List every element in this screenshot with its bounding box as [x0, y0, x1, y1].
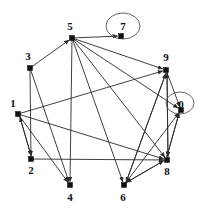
directed-graph-figure: 0123456789: [0, 0, 209, 212]
graph-edge-8-to-9: [167, 73, 168, 157]
node-label-5: 5: [67, 20, 73, 32]
node-label-0: 0: [178, 98, 184, 110]
node-label-6: 6: [120, 191, 126, 203]
graph-edge-3-to-4: [31, 70, 69, 182]
node-label-2: 2: [28, 164, 34, 176]
graph-edge-5-to-6: [73, 40, 123, 182]
node-label-7: 7: [120, 20, 126, 32]
graph-edge-3-to-2: [30, 70, 31, 155]
edges-layer: [19, 36, 180, 183]
graph-edge-5-to-4: [70, 40, 72, 181]
graph-edge-2-to-1: [20, 117, 31, 157]
graph-node-5[interactable]: [70, 36, 75, 41]
graph-node-6[interactable]: [122, 183, 127, 188]
graph-node-1[interactable]: [16, 112, 21, 117]
graph-edge-3-to-5: [32, 40, 69, 67]
graph-node-3[interactable]: [28, 66, 33, 71]
graph-node-4[interactable]: [68, 183, 73, 188]
graph-edge-8-to-6: [126, 160, 164, 182]
graph-edge-0-to-8: [167, 112, 179, 157]
graph-node-9[interactable]: [164, 68, 169, 73]
graph-edge-1-to-9: [20, 71, 163, 113]
graph-edge-5-to-7: [74, 36, 117, 38]
graph-canvas: 0123456789: [0, 0, 209, 212]
graph-edge-5-to-9: [74, 39, 163, 69]
node-label-9: 9: [163, 51, 169, 63]
node-label-1: 1: [10, 97, 16, 109]
node-label-4: 4: [67, 191, 73, 203]
node-label-3: 3: [25, 50, 31, 62]
graph-node-7[interactable]: [119, 34, 124, 39]
graph-edge-1-to-4: [19, 116, 68, 182]
node-label-8: 8: [164, 165, 170, 177]
graph-node-2[interactable]: [29, 157, 34, 162]
graph-edge-6-to-0: [125, 113, 179, 184]
graph-edge-6-to-9: [126, 74, 166, 184]
graph-node-8[interactable]: [165, 158, 170, 163]
graph-edge-5-to-8: [73, 40, 165, 158]
